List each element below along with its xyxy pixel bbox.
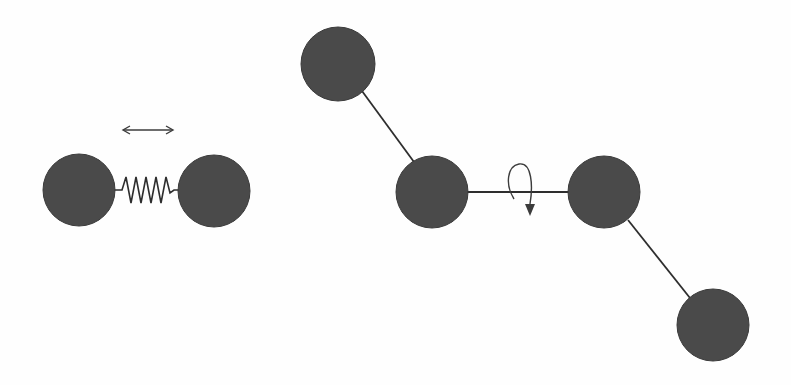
atom-torsion-right-center <box>568 156 640 228</box>
rotation-arrow-icon <box>508 164 535 216</box>
molecule-diagram <box>0 0 791 385</box>
stretch-panel <box>43 126 250 227</box>
atom-torsion-top <box>301 27 375 101</box>
torsion-panel <box>301 27 749 361</box>
diagram-canvas <box>0 0 791 385</box>
bond-top-to-left-center <box>362 91 414 162</box>
atom-stretch-right <box>178 155 250 227</box>
atom-torsion-bottom <box>677 289 749 361</box>
atom-stretch-left <box>43 154 115 226</box>
stretch-double-arrow-icon <box>123 126 173 134</box>
spring-bond <box>114 177 182 203</box>
bond-right-center-to-bottom <box>628 220 690 298</box>
atom-torsion-left-center <box>396 156 468 228</box>
